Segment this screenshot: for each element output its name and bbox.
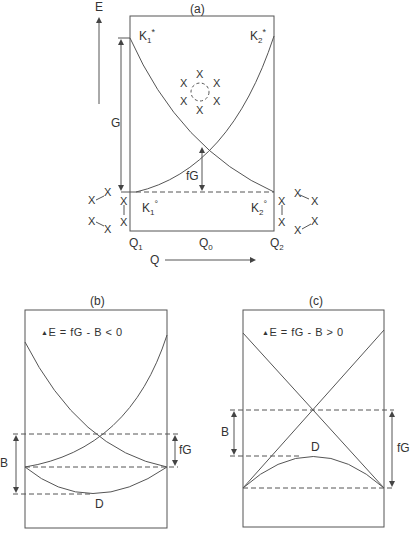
- panel-c-frame: [243, 310, 384, 527]
- x-marker: X: [278, 196, 285, 207]
- panel-b-fg-label: fG: [179, 444, 192, 456]
- energy-diagram-figure: (a) E Q K1* K2* K1° K2° G fG Q1 Q0 Q2 X …: [0, 0, 415, 538]
- panel-a-title: (a): [190, 3, 205, 15]
- q0-label: Q0: [199, 237, 213, 252]
- panel-b-title: (b): [90, 295, 105, 307]
- panel-b-curve-descending: [25, 342, 167, 467]
- panel-b-b-label: B: [0, 457, 8, 469]
- energy-axis-label: E: [95, 1, 103, 13]
- x-marker: X: [196, 69, 203, 80]
- x-marker: X: [213, 96, 220, 107]
- k1-ground-label: K1°: [142, 200, 158, 217]
- panel-c-fg-label: fG: [397, 442, 410, 454]
- x-marker: X: [120, 196, 127, 207]
- k1-excited-label: K1*: [139, 28, 155, 45]
- panel-c-title: (c): [309, 295, 323, 307]
- x-marker: X: [213, 78, 220, 89]
- q1-label: Q1: [129, 237, 143, 252]
- gap-g-label: G: [111, 117, 120, 129]
- panel-b-curve-ascending: [25, 335, 167, 467]
- panel-b-frame: [25, 310, 167, 528]
- x-marker: X: [180, 96, 187, 107]
- coordinate-axis-label: Q: [150, 254, 159, 266]
- x-marker: X: [180, 78, 187, 89]
- curve-k2-excited: [136, 36, 274, 192]
- panel-c-d-label: D: [311, 441, 320, 453]
- k2-ground-label: K2°: [251, 200, 267, 217]
- k2-excited-label: K2*: [250, 28, 266, 45]
- x-marker: X: [278, 217, 285, 228]
- q2-label: Q2: [270, 237, 284, 252]
- ring-center-dashed-circle: [191, 83, 209, 101]
- panel-b-d-label: D: [95, 498, 104, 510]
- x-marker: X: [311, 196, 318, 207]
- panel-b-curve-d: [25, 467, 167, 494]
- x-marker: X: [294, 225, 301, 236]
- barrier-fg-label: fG: [186, 170, 199, 182]
- panel-c-b-label: B: [221, 426, 229, 438]
- x-marker: X: [120, 217, 127, 228]
- panel-c-equation: ▲E = fG - B > 0: [262, 327, 344, 338]
- x-marker: X: [104, 224, 111, 235]
- x-marker: X: [88, 216, 95, 227]
- panel-c-curve-d: [243, 457, 384, 489]
- x-marker: X: [88, 195, 95, 206]
- x-marker: X: [294, 188, 301, 199]
- x-marker: X: [196, 105, 203, 116]
- panel-a-frame: [130, 16, 274, 231]
- x-marker: X: [104, 187, 111, 198]
- diagram-graphics: [0, 0, 415, 538]
- x-marker: X: [311, 216, 318, 227]
- panel-b-equation: ▲E = fG - B < 0: [41, 327, 123, 338]
